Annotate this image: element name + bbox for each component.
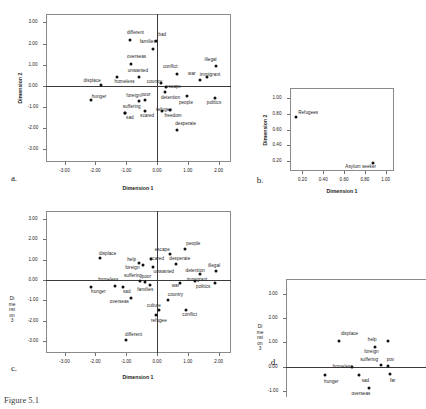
data-point — [129, 296, 132, 299]
panel-c-ytick-label: 1.00 — [29, 257, 38, 262]
data-point-label: foreign — [126, 94, 140, 99]
data-point — [368, 386, 371, 389]
panel-a-ytick-mark — [43, 128, 46, 129]
panel-b-xtick-mark — [302, 171, 303, 174]
panel-c-zero-vertical — [157, 211, 158, 353]
data-point-label: scared — [140, 114, 154, 119]
panel-a-ytick-label: 3.00 — [29, 20, 38, 25]
data-point-label: poor — [141, 93, 150, 98]
panel-a-xtick-mark — [126, 162, 127, 165]
data-point-label: families — [137, 288, 153, 293]
panel-c-xtick-label: 1.00 — [183, 360, 192, 365]
data-point-label: culture — [147, 304, 161, 309]
panel-a-xtick-mark — [95, 162, 96, 165]
panel-b-xtick-label: 0.40 — [319, 178, 328, 183]
data-point — [213, 282, 216, 285]
panel-c-xtick-label: 2.00 — [214, 360, 223, 365]
panel-c-ytick-mark — [43, 239, 46, 240]
panel-c-xtick-label: -1.00 — [121, 360, 131, 365]
panel-b-xaxis-title: Dimension 1 — [327, 189, 358, 194]
panel-a-ytick-mark — [43, 44, 46, 45]
data-point-label: help — [368, 338, 377, 343]
figure-caption: Figure 5.1 — [4, 396, 39, 405]
panel-a-xtick-label: -2.00 — [90, 169, 100, 174]
data-point — [144, 109, 147, 112]
panel-d-ytick-label: 1.00 — [269, 340, 278, 345]
data-point — [184, 247, 187, 250]
panel-a-ytick-label: 1.00 — [29, 62, 38, 67]
panel-a-ytick-label: 0.00 — [29, 84, 38, 89]
panel-a-xaxis-title: Dimension 1 — [123, 186, 154, 191]
panel-b-ytick-mark — [287, 130, 290, 131]
data-point-label: unwanted — [154, 270, 174, 275]
panel-c-ytick-label: -3.00 — [28, 339, 38, 344]
panel-d-zero-horizontal — [286, 367, 426, 368]
data-point — [324, 374, 327, 377]
panel-b-xtick-label: 0.20 — [298, 178, 307, 183]
data-point-label: displace — [99, 251, 116, 256]
panel-c-ytick-label: 3.00 — [29, 217, 38, 222]
panel-c-xtick-mark — [219, 353, 220, 356]
panel-b-letter: b. — [257, 176, 264, 185]
panel-b-xtick-mark — [323, 171, 324, 174]
data-point-label: foreign — [125, 266, 139, 271]
data-point-label: poor — [142, 275, 151, 280]
panel-c-ytick-label: -1.00 — [28, 298, 38, 303]
panel-c-ytick-mark — [43, 341, 46, 342]
data-point-label: different — [127, 31, 144, 36]
panel-d-ytick-label: 0.00 — [269, 364, 278, 369]
panel-a-ytick-label: -3.00 — [28, 147, 38, 152]
data-point — [99, 83, 102, 86]
data-point-label: sad — [126, 115, 134, 120]
data-point — [176, 128, 179, 131]
data-point — [138, 99, 141, 102]
panel-c-ytick-mark — [43, 300, 46, 301]
panel-a-xtick-mark — [219, 162, 220, 165]
data-point — [89, 99, 92, 102]
data-point — [198, 78, 201, 81]
data-point — [98, 257, 101, 260]
data-point-label: desperate — [169, 257, 190, 262]
data-point-label: hunger — [324, 379, 339, 384]
panel-a-ytick-mark — [43, 107, 46, 108]
panel-b-xtick-mark — [365, 171, 366, 174]
data-point-label: sad — [123, 289, 131, 294]
data-point-label: unwanted — [128, 69, 148, 74]
panel-b: Dimension 1 Dimension 2 b. 0.200.400.600… — [252, 80, 408, 195]
data-point-label: overseas — [127, 54, 146, 59]
panel-a-xtick-label: 0.00 — [153, 169, 162, 174]
data-point-label: homeless — [98, 277, 118, 282]
panel-a-xtick-label: -3.00 — [59, 169, 69, 174]
panel-d-ytick-mark — [283, 391, 286, 392]
data-point — [164, 90, 167, 93]
data-point — [387, 340, 390, 343]
panel-b-ytick-mark — [287, 161, 290, 162]
data-point — [142, 263, 145, 266]
data-point-label: detention — [186, 269, 205, 274]
panel-b-plot-frame — [290, 88, 394, 171]
panel-b-ytick-label: 0.80 — [273, 111, 282, 116]
panel-c-xtick-mark — [65, 353, 66, 356]
data-point-label: people — [179, 100, 193, 105]
data-point-label: war — [188, 72, 196, 77]
panel-c-ytick-mark — [43, 321, 46, 322]
data-point-label: desperate — [175, 122, 196, 127]
data-point-label: homeless — [333, 364, 353, 369]
panel-b-ytick-mark — [287, 114, 290, 115]
panel-c-ytick-mark — [43, 219, 46, 220]
panel-b-xtick-label: 1.00 — [381, 178, 390, 183]
panel-a-yaxis-title: Dimension 2 — [18, 73, 23, 104]
data-point-label: homeless — [115, 80, 135, 85]
data-point-label: refugee — [151, 319, 167, 324]
panel-a-ytick-mark — [43, 65, 46, 66]
panel-d-ytick-label: 3.00 — [269, 291, 278, 296]
data-point — [137, 76, 140, 79]
data-point — [168, 108, 171, 111]
data-point-label: conflict — [163, 65, 178, 70]
panel-b-ytick-label: 0.60 — [273, 127, 282, 132]
data-point — [337, 339, 340, 342]
data-point — [358, 373, 361, 376]
panel-b-xtick-mark — [344, 171, 345, 174]
data-point-label: Refugees — [298, 110, 318, 115]
data-point — [152, 48, 155, 51]
